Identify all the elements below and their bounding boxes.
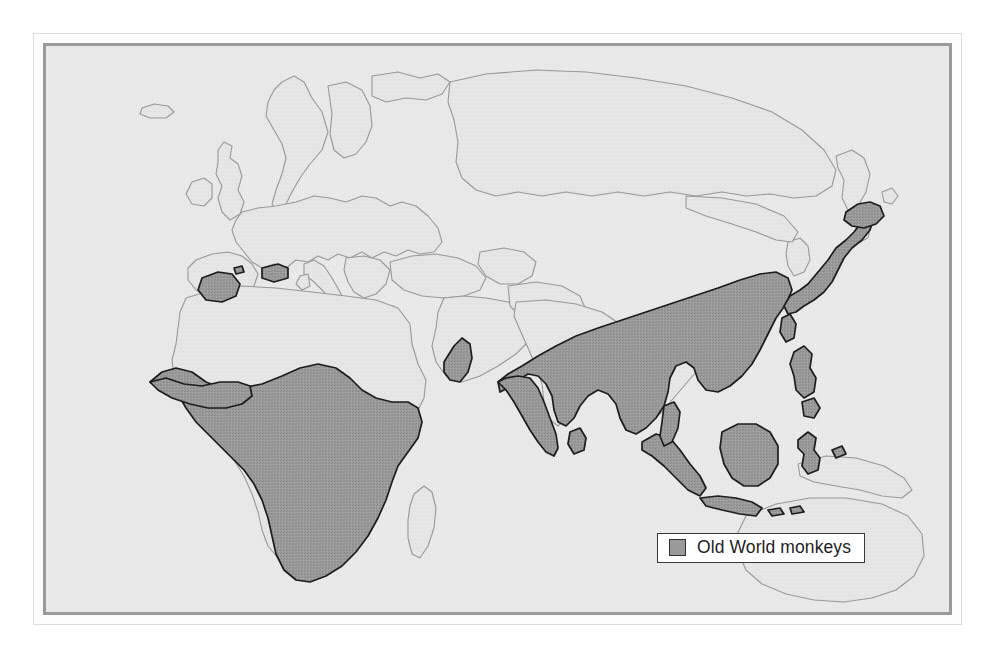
figure-page: Old World monkeys — [0, 0, 994, 665]
range-gibraltar — [234, 266, 244, 274]
map-frame — [43, 43, 952, 615]
range-sri-lanka — [568, 428, 586, 454]
legend-label: Old World monkeys — [697, 539, 851, 557]
range-lesser-sundas-1 — [768, 508, 784, 516]
range-shading-swatch — [669, 539, 686, 556]
range-algeria — [262, 264, 288, 282]
map-legend: Old World monkeys — [657, 533, 865, 563]
map-canvas — [46, 46, 949, 612]
range-morocco — [198, 272, 240, 302]
